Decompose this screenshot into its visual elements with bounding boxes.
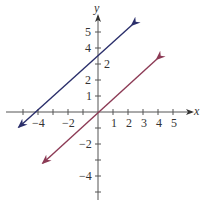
x-tick-label-1: 1 bbox=[111, 117, 117, 129]
x-tick-label-neg2: −2 bbox=[62, 117, 75, 129]
x-tick-label-neg4: −4 bbox=[32, 117, 45, 129]
y-tick-label-2: 2 bbox=[85, 74, 91, 86]
y-tick-label-1: 1 bbox=[86, 90, 92, 102]
red-line bbox=[43, 59, 157, 163]
y-tick-label-5: 5 bbox=[85, 26, 91, 38]
x-tick-label-2: 2 bbox=[126, 117, 132, 129]
y-axis-label: y bbox=[94, 2, 99, 14]
y-tick-label-neg4: −4 bbox=[79, 170, 92, 182]
x-tick-label-3: 3 bbox=[141, 117, 147, 129]
x-axis-label: x bbox=[194, 105, 199, 117]
y-tick-label-4: 4 bbox=[85, 42, 91, 54]
x-tick-label-5: 5 bbox=[171, 117, 177, 129]
y-tick-label-3: 2 bbox=[104, 58, 110, 70]
y-tick-label-neg2: −2 bbox=[79, 138, 92, 150]
x-tick-label-4: 4 bbox=[156, 117, 162, 129]
coordinate-plane bbox=[0, 0, 204, 212]
